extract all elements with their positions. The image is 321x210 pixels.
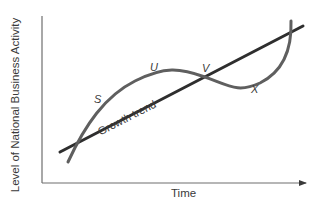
label-s: S <box>94 94 101 105</box>
label-v: V <box>202 63 209 74</box>
label-u: U <box>150 62 158 73</box>
label-x: X <box>251 84 258 95</box>
growth-trend-line <box>60 26 303 152</box>
business-cycle-diagram <box>0 0 321 210</box>
x-axis-label: Time <box>171 187 196 199</box>
y-axis-label: Level of National Business Activity <box>9 18 21 193</box>
